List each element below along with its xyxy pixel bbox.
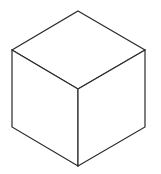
cube-faces — [12, 11, 145, 166]
cube-diagram — [0, 0, 161, 174]
cube-svg — [0, 0, 161, 174]
